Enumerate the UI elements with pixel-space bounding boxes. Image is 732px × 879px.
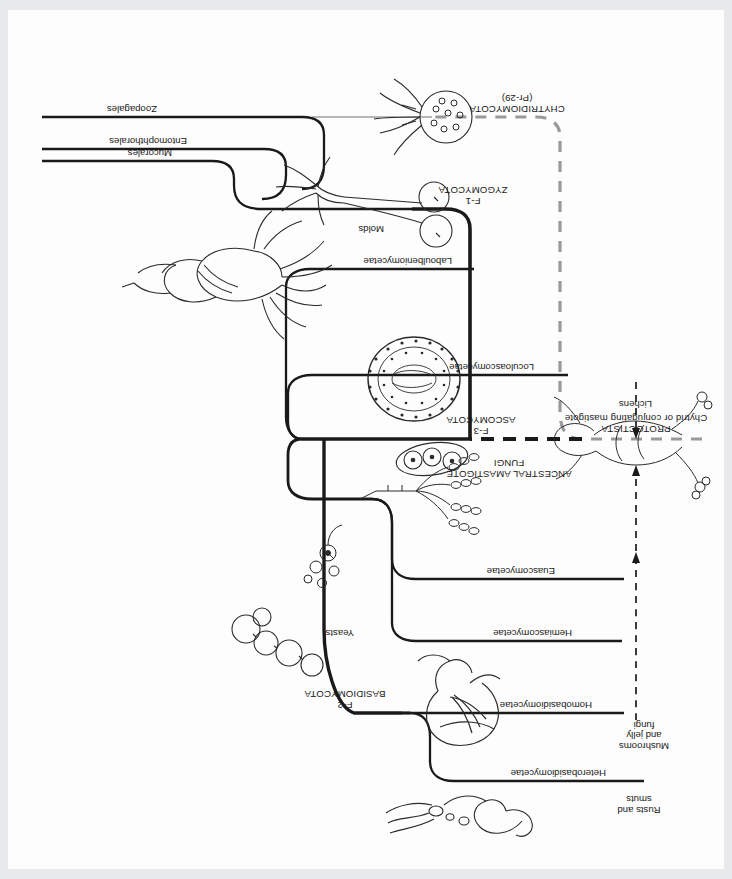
tree-canvas: Heterobasidiomycetae Homobasidiomycetae … [0,0,732,879]
phylum-label-basidiomycota: F-2 BASIDIOMYCOTA [290,689,400,710]
protoctista-line2: Chytrid or conjugating mastigote [550,413,722,424]
class-label-heterobasidiomycetae: Heterobasidiomycetae [511,767,606,778]
zygomycota-code: F-1 [418,195,528,206]
common-name-rusts-and-smuts: Rusts and smuts [604,794,674,815]
chytridiomycota-name: CHYTRIDIOMYCOTA [452,103,582,114]
laboulbeniomycete-fly-sketch [122,211,332,339]
phylum-label-chytridiomycota: CHYTRIDIOMYCOTA (Pr-29) [452,93,582,114]
ancestral-fungi-label: ANCESTRAL AMASTIGOTE FUNGI [434,458,584,479]
class-label-loculoascomycetae: Loculoascomycetae [449,361,534,372]
basidiomycota-name: BASIDIOMYCOTA [290,689,400,700]
class-label-homobasidiomycetae: Homobasidiomycetae [500,699,592,710]
chytridiomycota-branch [432,117,582,439]
class-label-entomophthorales: Entomophthorales [109,135,187,146]
annotation-lichens: Lichens [619,398,652,409]
yeast-sketch [232,608,323,676]
lichen-arrow-upper [632,465,640,476]
common-name-mushrooms-and-jelly-fungi: Mushrooms and jelly fungi [602,719,686,751]
zygomycota-name: ZYGOMYCOTA [418,185,528,196]
rusts-line2: smuts [604,794,674,805]
chytridiomycota-sub: (Pr-29) [452,93,582,104]
mushrooms-line3: fungi [602,719,686,730]
phylum-label-ascomycota: F-3 ASCOMYCOTA [426,415,536,436]
branch-mucorales [42,161,262,209]
rusts-line1: Rusts and [604,804,674,815]
annotation-molds: Molds [358,223,384,234]
protoctista-label: PROTOCTISTA Chytrid or conjugating masti… [550,413,722,434]
class-label-zoopagales: Zoopagales [107,103,157,114]
class-label-laboulbeniomycetae: Laboulbeniomycetae [363,255,452,266]
ancestral-line1: ANCESTRAL AMASTIGOTE [434,468,584,479]
mushrooms-line1: Mushrooms [602,740,686,751]
ancestral-line2: FUNGI [434,458,584,469]
common-name-yeasts: Yeasts [326,627,354,638]
rust-smut-sketch [386,796,532,836]
ascomycota-upper-fan [288,439,372,499]
mushrooms-line2: and jelly [602,730,686,741]
loculoascomycete-sketch [368,337,460,421]
phylum-label-zygomycota: F-1 ZYGOMYCOTA [418,185,528,206]
lichen-arrow-mid [632,552,640,563]
ascomycota-name: ASCOMYCOTA [426,415,536,426]
figure-page: Heterobasidiomycetae Homobasidiomycetae … [0,0,732,879]
protoctista-line1: PROTOCTISTA [550,423,722,434]
branch-laboulbeniomycetae [286,269,474,439]
class-label-hemiascomycetae: Hemiascomycetae [493,627,572,638]
zygomycota-trunk [412,209,470,439]
class-label-euascomycetae: Euascomycetae [487,565,555,576]
basidiomycota-code: F-2 [290,699,400,710]
class-label-mucorales: Mucorales [128,147,172,158]
ascomycota-code: F-3 [426,425,536,436]
